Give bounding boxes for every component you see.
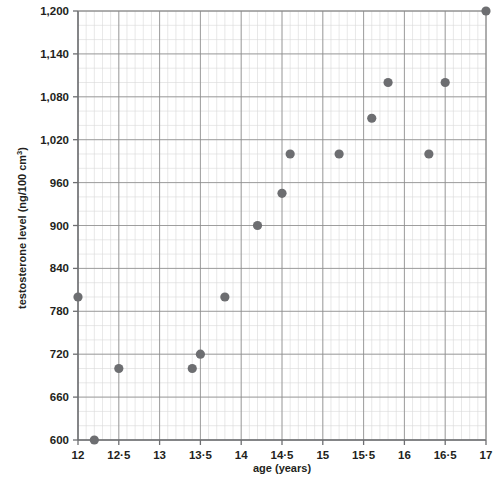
data-point-marker — [253, 221, 262, 230]
x-axis-tick-label: 17 — [480, 449, 493, 461]
data-point-marker — [335, 149, 344, 158]
data-point-marker — [90, 435, 99, 444]
data-point-marker — [481, 6, 490, 15]
data-point-marker — [188, 364, 197, 373]
data-point-marker — [73, 292, 82, 301]
x-axis-title: age (years) — [253, 462, 311, 474]
scatter-plot-page: 1212·51313·51414·51515·51616·517 6006607… — [0, 0, 503, 482]
y-axis-tick-label: 1,140 — [40, 48, 69, 60]
data-point-marker — [383, 78, 392, 87]
y-axis-tick-label: 1,200 — [40, 5, 69, 17]
y-axis-tick-label: 600 — [50, 434, 69, 446]
y-axis-tick-label: 1,080 — [40, 91, 69, 103]
x-axis-tick-label: 12 — [72, 449, 85, 461]
testosterone-vs-age-scatter-chart: 1212·51313·51414·51515·51616·517 6006607… — [0, 0, 503, 482]
y-axis-tick-label: 660 — [50, 391, 69, 403]
y-axis-tick-label: 1,020 — [40, 134, 69, 146]
y-axis-title-tail: ) — [16, 147, 28, 151]
y-axis-tick-label: 780 — [50, 305, 69, 317]
x-axis-tick-label: 12·5 — [107, 449, 131, 461]
x-axis-tick-label: 14·5 — [270, 449, 294, 461]
y-axis-title: testosterone level (ng/100 cm3) — [15, 147, 28, 309]
data-point-marker — [196, 350, 205, 359]
data-point-marker — [367, 114, 376, 123]
data-point-marker — [114, 364, 123, 373]
x-axis-tick-label: 15 — [316, 449, 329, 461]
x-axis-tick-label: 14 — [235, 449, 248, 461]
x-axis-tick-label: 13 — [153, 449, 166, 461]
chart-background — [0, 0, 503, 482]
x-axis-title-text: age (years) — [253, 462, 311, 474]
data-point-marker — [220, 292, 229, 301]
x-axis-tick-label: 16 — [398, 449, 411, 461]
x-axis-tick-label: 15·5 — [352, 449, 376, 461]
y-axis-tick-label: 960 — [50, 177, 69, 189]
data-point-marker — [424, 149, 433, 158]
data-point-marker — [441, 78, 450, 87]
y-axis-title-text: testosterone level (ng/100 cm3) — [15, 147, 28, 309]
y-axis-title-main: testosterone level (ng/100 cm — [16, 155, 28, 309]
y-axis-tick-label: 840 — [50, 262, 69, 274]
data-point-marker — [286, 149, 295, 158]
data-point-marker — [277, 189, 286, 198]
y-axis-tick-label: 720 — [50, 348, 69, 360]
x-axis-tick-label: 16·5 — [434, 449, 458, 461]
x-axis-tick-label: 13·5 — [189, 449, 213, 461]
y-axis-tick-label: 900 — [50, 220, 69, 232]
